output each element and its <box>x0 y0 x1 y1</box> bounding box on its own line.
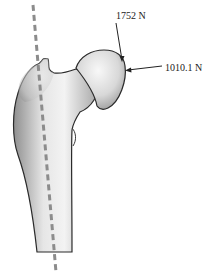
force-label-1752: 1752 N <box>116 11 146 21</box>
force-label-1010: 1010.1 N <box>165 63 202 73</box>
femur-diagram <box>0 0 209 275</box>
force-arrow-1010 <box>125 66 162 73</box>
